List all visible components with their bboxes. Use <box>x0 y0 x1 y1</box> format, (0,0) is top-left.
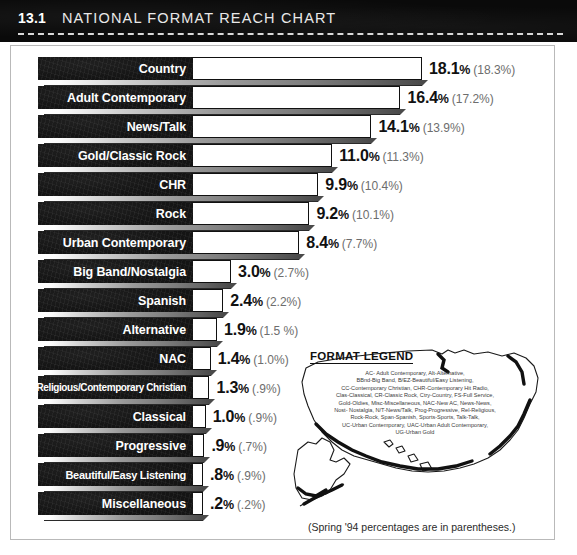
bar-group: Classical <box>38 405 206 428</box>
format-label-block: Urban Contemporary <box>38 231 193 254</box>
value-bar <box>193 434 204 457</box>
legend-abbreviation-list: AC- Adult Contemporary, Alt-Alternative,… <box>310 370 520 437</box>
value-bar <box>193 57 422 80</box>
bar-group: News/Talk <box>38 115 371 138</box>
prior-year-value: (.2%) <box>237 498 266 512</box>
bar-group: NAC <box>38 347 211 370</box>
prior-year-value: (10.1%) <box>352 208 394 222</box>
prior-year-value: (17.2%) <box>452 92 494 106</box>
prior-year-value: (10.4%) <box>361 179 403 193</box>
chart-row: CHR9.9%(10.4%) <box>38 173 558 202</box>
bar-group: Miscellaneous <box>38 492 203 515</box>
section-header-band: 13.1 NATIONAL FORMAT REACH CHART <box>0 0 577 42</box>
bar-group: Beautiful/Easy Listening <box>38 463 203 486</box>
legend-line: Rock-Rock, Span-Spanish, Sports-Sports, … <box>310 414 520 421</box>
header-dashed-rule <box>18 33 563 35</box>
value-bar <box>193 202 309 225</box>
value-bar <box>193 115 371 138</box>
format-label-block: Religious/Contemporary Christian <box>38 376 193 399</box>
legend-line: CC-Contemporary Christian, CHR-Contempor… <box>310 385 520 392</box>
value-labels: 1.3%(.9%) <box>216 378 280 399</box>
prior-year-value: (.9%) <box>252 382 281 396</box>
bar-group: Spanish <box>38 289 223 312</box>
value-labels: .8%(.9%) <box>210 465 266 486</box>
primary-value: .9% <box>211 437 235 454</box>
bar-group: Big Band/Nostalgia <box>38 260 231 283</box>
legend-line: UG-Urban Gold <box>310 429 520 436</box>
primary-value: 9.2% <box>316 205 349 222</box>
legend-line: AC- Adult Contemporary, Alt-Alternative, <box>310 370 520 377</box>
value-bar <box>193 173 318 196</box>
value-bar <box>193 318 217 341</box>
primary-value: 18.1% <box>429 60 470 77</box>
chart-row: Rock9.2%(10.1%) <box>38 202 558 231</box>
legend-line: BBnd-Big Band, B/EZ-Beautiful/Easy Liste… <box>310 377 520 384</box>
bar-group: Adult Contemporary <box>38 86 400 109</box>
primary-value: 2.4% <box>230 292 263 309</box>
chart-row: Adult Contemporary16.4%(17.2%) <box>38 86 558 115</box>
format-label-block: Rock <box>38 202 193 225</box>
format-legend-box: FORMAT LEGEND AC- Adult Contemporary, Al… <box>310 346 520 437</box>
chart-row: Country18.1%(18.3%) <box>38 57 558 86</box>
value-bar <box>193 347 211 370</box>
value-bar <box>193 376 209 399</box>
format-label-block: Beautiful/Easy Listening <box>38 463 193 486</box>
bar-group: Religious/Contemporary Christian <box>38 376 209 399</box>
format-label: Urban Contemporary <box>63 236 186 250</box>
us-map-legend: FORMAT LEGEND AC- Adult Contemporary, Al… <box>292 338 550 513</box>
chart-row: News/Talk14.1%(13.9%) <box>38 115 558 144</box>
value-labels: 9.9%(10.4%) <box>325 175 403 196</box>
value-bar <box>193 463 203 486</box>
format-label-block: Country <box>38 57 193 80</box>
value-labels: 8.4%(7.7%) <box>306 233 377 254</box>
legend-line: Clas-Classical, CR-Classic Rock, Ctry-Co… <box>310 392 520 399</box>
format-label-block: Gold/Classic Rock <box>38 144 193 167</box>
format-label: Alternative <box>122 323 186 337</box>
format-label-block: Progressive <box>38 434 193 457</box>
primary-value: 1.4% <box>218 350 251 367</box>
format-label-block: NAC <box>38 347 193 370</box>
prior-year-value: (.9%) <box>248 411 277 425</box>
format-label-block: Miscellaneous <box>38 492 193 515</box>
format-label-block: Big Band/Nostalgia <box>38 260 193 283</box>
prior-year-value: (.7%) <box>238 440 267 454</box>
prior-year-value: (13.9%) <box>423 121 465 135</box>
format-label-block: Adult Contemporary <box>38 86 193 109</box>
format-label: Rock <box>156 207 186 221</box>
value-bar <box>193 144 332 167</box>
chart-row: Urban Contemporary8.4%(7.7%) <box>38 231 558 260</box>
value-labels: 1.4%(1.0%) <box>218 349 289 370</box>
bar-group: Gold/Classic Rock <box>38 144 332 167</box>
primary-value: 8.4% <box>306 234 339 251</box>
bar-group: Alternative <box>38 318 217 341</box>
prior-year-value: (2.2%) <box>266 295 301 309</box>
value-labels: 16.4%(17.2%) <box>407 88 493 109</box>
primary-value: 1.9% <box>224 321 257 338</box>
format-label-block: Classical <box>38 405 193 428</box>
format-label: Big Band/Nostalgia <box>73 265 186 279</box>
value-bar <box>193 405 206 428</box>
primary-value: .8% <box>210 466 234 483</box>
prior-year-value: (2.7%) <box>274 266 309 280</box>
legend-line: Gold-Oldies, Misc-Miscellaneous, NAC-New… <box>310 400 520 407</box>
bar-group: CHR <box>38 173 318 196</box>
value-labels: 9.2%(10.1%) <box>316 204 394 225</box>
format-label: Beautiful/Easy Listening <box>65 469 186 481</box>
prior-year-value: (1.0%) <box>253 353 288 367</box>
primary-value: 9.9% <box>325 176 358 193</box>
prior-year-value: (7.7%) <box>342 237 377 251</box>
primary-value: .2% <box>210 495 234 512</box>
prior-year-value: (18.3%) <box>473 63 515 77</box>
chart-footnote: (Spring '94 percentages are in parenthes… <box>308 521 515 533</box>
value-labels: 11.0%(11.3%) <box>339 146 424 167</box>
value-labels: 1.0%(.9%) <box>213 407 277 428</box>
value-bar <box>193 260 231 283</box>
primary-value: 14.1% <box>378 118 419 135</box>
format-label-block: News/Talk <box>38 115 193 138</box>
legend-line: UC-Urban Contemporary, UAC-Urban Adult C… <box>310 422 520 429</box>
value-bar <box>193 492 203 515</box>
chart-row: Big Band/Nostalgia3.0%(2.7%) <box>38 260 558 289</box>
value-bar <box>193 231 299 254</box>
value-labels: 14.1%(13.9%) <box>378 117 464 138</box>
primary-value: 3.0% <box>238 263 271 280</box>
